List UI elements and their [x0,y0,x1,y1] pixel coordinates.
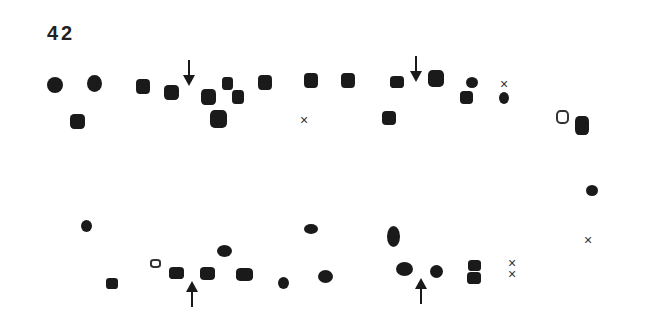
filled-marker [200,267,215,280]
filled-marker [304,73,318,88]
filled-marker [232,90,244,104]
filled-marker [466,77,478,88]
cross-marker-icon: × [500,77,508,91]
cross-marker-icon: × [584,233,592,247]
filled-marker [460,91,473,104]
filled-marker [382,111,396,125]
filled-marker [222,77,233,90]
filled-marker [586,185,598,196]
filled-marker [318,270,333,283]
filled-marker [106,278,118,289]
filled-marker [499,92,509,104]
filled-marker [341,73,355,88]
open-marker [556,110,569,124]
arrow-down-icon [183,60,195,86]
filled-marker [390,76,404,88]
filled-marker [217,245,232,257]
open-marker [150,259,161,268]
arrow-up-icon [186,281,198,307]
cross-marker-icon: × [300,113,308,127]
filled-marker [70,114,85,129]
filled-marker [81,220,92,232]
filled-marker [258,75,272,90]
filled-marker [430,265,443,278]
cross-marker-icon: × [508,267,516,281]
filled-marker [387,226,400,247]
filled-marker [136,79,150,94]
filled-marker [47,77,63,93]
arrow-down-icon [410,56,422,82]
filled-marker [304,224,318,234]
arrow-up-icon [415,278,427,304]
filled-marker [396,262,413,276]
filled-marker [468,260,481,271]
filled-marker [87,75,102,92]
filled-marker [164,85,179,100]
filled-marker [210,110,227,128]
filled-marker [575,116,589,135]
filled-marker [169,267,184,279]
filled-marker [278,277,289,289]
filled-marker [428,70,444,87]
figure-number: 42 [47,22,75,45]
filled-marker [467,272,481,284]
filled-marker [236,268,253,281]
filled-marker [201,89,216,105]
